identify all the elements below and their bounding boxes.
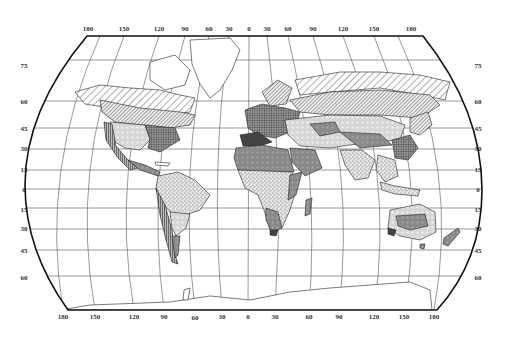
lon-label: 150 <box>90 313 101 321</box>
lon-label: 60 <box>306 313 314 321</box>
new-zealand <box>443 228 460 246</box>
east-asia-deciduous <box>392 135 418 160</box>
lat-label: 30 <box>21 225 29 233</box>
scandinavia <box>262 80 292 106</box>
arabian-desert <box>290 148 322 176</box>
lon-label: 60 <box>206 25 214 33</box>
lon-label: 30 <box>226 25 234 33</box>
lon-label: 180 <box>58 313 69 321</box>
lon-label: 90 <box>161 313 169 321</box>
lon-label: 0 <box>246 313 250 321</box>
south-america-pampas <box>170 212 190 236</box>
lon-label: 60 <box>285 25 293 33</box>
lat-label: 45 <box>21 125 29 133</box>
lat-label: 45 <box>475 247 483 255</box>
lat-label: 45 <box>475 125 483 133</box>
caribbean-islands <box>155 162 170 166</box>
lat-label: 75 <box>475 62 483 70</box>
lon-label: 180 <box>83 25 94 33</box>
lat-label: 30 <box>21 145 29 153</box>
lon-label: 150 <box>119 25 130 33</box>
lon-label: 150 <box>399 313 410 321</box>
north-america-deciduous <box>145 125 180 152</box>
southeast-asia <box>376 155 398 182</box>
south-asia-tropical <box>340 150 375 180</box>
lat-label: 60 <box>475 274 483 282</box>
lat-label: 60 <box>21 274 29 282</box>
lon-label: 120 <box>154 25 165 33</box>
lon-label: 0 <box>247 25 251 33</box>
lon-label: 90 <box>336 313 344 321</box>
lon-label: 120 <box>129 313 140 321</box>
top-longitude-labels: 180 150 120 90 60 30 0 30 60 90 120 150 … <box>83 25 417 33</box>
indonesia <box>380 182 420 196</box>
south-africa-cape <box>270 230 278 236</box>
asia-boreal <box>290 90 440 118</box>
lon-label: 150 <box>369 25 380 33</box>
map-body <box>0 36 506 310</box>
lat-label: 75 <box>21 62 29 70</box>
lon-label: 30 <box>219 313 227 321</box>
madagascar <box>305 198 312 216</box>
lon-label: 30 <box>272 313 280 321</box>
lon-label: 120 <box>369 313 380 321</box>
lon-label: 180 <box>406 25 417 33</box>
lon-label: 60 <box>192 314 200 322</box>
world-vegetation-map: 180 150 120 90 60 30 0 30 60 90 120 150 … <box>0 0 506 346</box>
tasmania <box>420 244 425 249</box>
left-latitude-labels: 75 60 45 30 15 0 15 30 45 60 <box>21 62 29 282</box>
lat-label: 45 <box>21 247 29 255</box>
lon-label: 90 <box>182 25 190 33</box>
lon-label: 180 <box>429 313 440 321</box>
lat-label: 60 <box>21 98 29 106</box>
antarctica <box>60 282 432 310</box>
lon-label: 120 <box>338 25 349 33</box>
lat-label: 60 <box>475 98 483 106</box>
bottom-longitude-labels: 180 150 120 90 60 30 0 30 60 90 120 150 … <box>58 313 440 322</box>
greenland <box>190 38 240 98</box>
lat-label: 0 <box>476 186 480 194</box>
lon-label: 30 <box>264 25 272 33</box>
africa-east-highlands <box>288 172 302 200</box>
lon-label: 90 <box>310 25 318 33</box>
antarctic-peninsula <box>183 288 190 300</box>
